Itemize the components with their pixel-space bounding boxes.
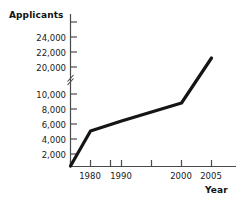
y-axis-ticks: [71, 22, 78, 154]
x-axis-ticks: [71, 160, 212, 167]
applicants-data-line: [71, 58, 212, 166]
plot-area: [0, 0, 243, 204]
applicants-line-chart: Applicants Year 24,000 22,000 20,000 10,…: [0, 0, 243, 204]
